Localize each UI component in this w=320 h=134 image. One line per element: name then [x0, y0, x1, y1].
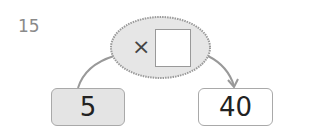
multiply-symbol: ×: [132, 34, 150, 59]
input-value: 5: [80, 92, 97, 122]
output-box: 40: [198, 88, 273, 126]
output-value: 40: [219, 92, 252, 122]
input-connector-line: [78, 56, 114, 88]
input-box: 5: [51, 88, 125, 126]
answer-blank-box[interactable]: [155, 29, 191, 67]
